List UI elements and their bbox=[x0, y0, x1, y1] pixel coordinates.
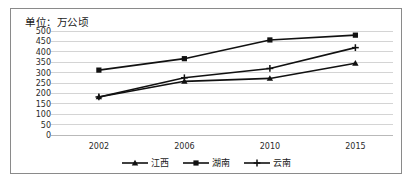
x-axis-tick-label: 2002 bbox=[89, 142, 109, 151]
legend-label: 湖南 bbox=[212, 156, 230, 169]
legend-marker-triangle-icon bbox=[122, 158, 148, 168]
legend-item-江西[interactable]: 江西 bbox=[122, 156, 169, 169]
chart-container: 单位：万公顷 500450400350300250200150100500 20… bbox=[10, 8, 402, 174]
data-point-marker-plus bbox=[253, 159, 260, 166]
chart-plot-area: 单位：万公顷 500450400350300250200150100500 20… bbox=[11, 9, 401, 173]
x-axis-tick-labels: 2002200620102015 bbox=[11, 9, 401, 173]
x-axis-tick-label: 2015 bbox=[345, 142, 365, 151]
legend-label: 江西 bbox=[151, 156, 169, 169]
x-axis-tick-label: 2006 bbox=[174, 142, 194, 151]
legend-item-云南[interactable]: 云南 bbox=[244, 156, 291, 169]
x-axis-tick-label: 2010 bbox=[260, 142, 280, 151]
legend-label: 云南 bbox=[273, 156, 291, 169]
legend-item-湖南[interactable]: 湖南 bbox=[183, 156, 230, 169]
data-point-marker-square bbox=[193, 160, 198, 165]
chart-legend: 江西湖南云南 bbox=[11, 156, 401, 169]
legend-marker-square-icon bbox=[183, 158, 209, 168]
legend-marker-plus-icon bbox=[244, 158, 270, 168]
